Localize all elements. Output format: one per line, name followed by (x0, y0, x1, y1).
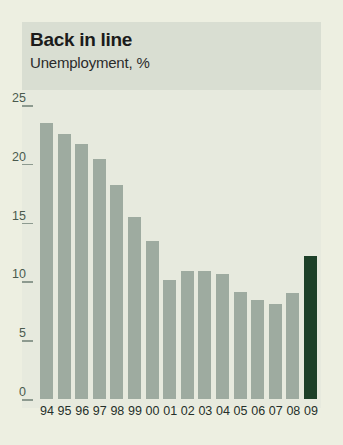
bar-09 (304, 256, 317, 399)
bar-08 (286, 293, 299, 399)
bar-00 (146, 241, 159, 399)
x-axis-tick-label: 03 (198, 404, 211, 418)
bar-98 (110, 185, 123, 399)
x-axis-tick-label: 00 (146, 404, 159, 418)
x-axis-tick-label: 98 (110, 404, 123, 418)
x-axis-tick-label: 97 (93, 404, 106, 418)
bar-94 (40, 123, 53, 399)
chart-figure: Back in line Unemployment, % 0510152025 … (0, 0, 343, 445)
bar-series: 94959697989900010203040506070809 (0, 0, 343, 445)
x-axis-tick-label: 94 (40, 404, 53, 418)
bar-07 (269, 304, 282, 399)
x-axis-tick-label: 95 (58, 404, 71, 418)
x-axis-tick-label: 07 (269, 404, 282, 418)
x-axis-tick-label: 05 (234, 404, 247, 418)
bar-05 (234, 292, 247, 399)
bar-95 (58, 134, 71, 399)
bar-04 (216, 274, 229, 399)
bar-01 (163, 280, 176, 399)
bar-02 (181, 271, 194, 399)
x-axis-tick-label: 02 (181, 404, 194, 418)
bar-97 (93, 159, 106, 399)
bar-96 (75, 144, 88, 399)
x-axis-tick-label: 09 (304, 404, 317, 418)
x-axis-tick-label: 04 (216, 404, 229, 418)
x-axis-tick-label: 96 (75, 404, 88, 418)
x-axis-tick-label: 06 (251, 404, 264, 418)
bar-06 (251, 300, 264, 399)
x-axis-tick-label: 01 (163, 404, 176, 418)
x-axis-tick-label: 99 (128, 404, 141, 418)
bar-03 (198, 271, 211, 399)
bar-99 (128, 217, 141, 399)
x-axis-tick-label: 08 (286, 404, 299, 418)
